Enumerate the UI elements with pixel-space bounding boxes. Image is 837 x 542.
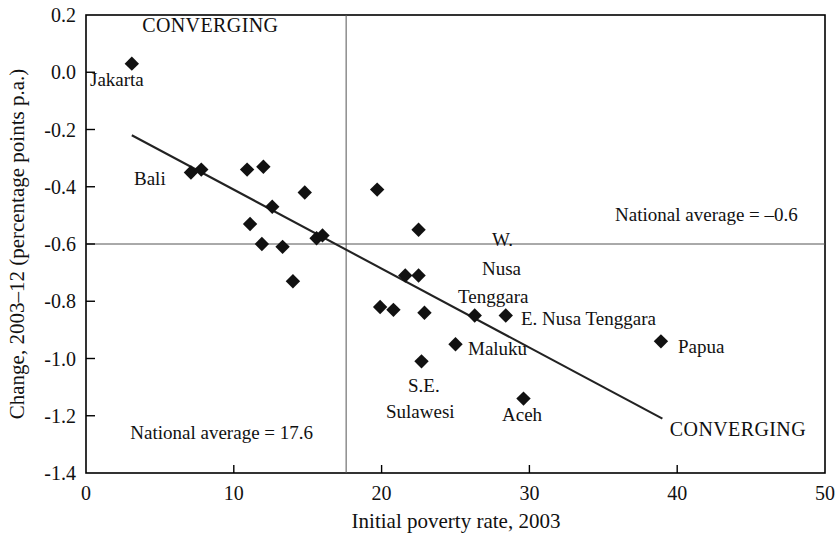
label-w-nusa-tenggara-line3: Tenggara bbox=[458, 286, 529, 307]
y-tick-label: -0.6 bbox=[44, 233, 76, 255]
x-tick-label: 40 bbox=[667, 482, 687, 504]
annotation-national-average-poverty: National average = 17.6 bbox=[130, 422, 313, 443]
label-maluku: Maluku bbox=[468, 338, 528, 359]
scatter-plot-figure: 01020304050 0.20.0-0.2-0.4-0.6-0.8-1.0-1… bbox=[0, 0, 837, 542]
annotation-converging-top-left: CONVERGING bbox=[142, 14, 278, 36]
label-aceh: Aceh bbox=[502, 404, 543, 425]
x-tick-label: 20 bbox=[372, 482, 392, 504]
x-axis-title: Initial poverty rate, 2003 bbox=[352, 509, 561, 533]
annotation-converging-bottom-right: CONVERGING bbox=[670, 418, 806, 440]
y-tick-label: 0.0 bbox=[51, 61, 76, 83]
label-se-sulawesi-line1: S.E. bbox=[408, 375, 440, 396]
annotation-national-average-change: National average = –0.6 bbox=[615, 204, 798, 225]
y-tick-label: -0.4 bbox=[44, 176, 76, 198]
y-axis-title: Change, 2003–12 (percentage points p.a.) bbox=[5, 69, 29, 419]
label-w-nusa-tenggara-line2: Nusa bbox=[482, 258, 522, 279]
label-e-nusa-tenggara: E. Nusa Tenggara bbox=[521, 308, 657, 329]
x-tick-label: 30 bbox=[519, 482, 539, 504]
y-tick-label: -1.2 bbox=[44, 405, 76, 427]
label-se-sulawesi-line2: Sulawesi bbox=[386, 401, 455, 422]
y-tick-label: 0.2 bbox=[51, 4, 76, 26]
label-papua: Papua bbox=[678, 336, 725, 357]
x-tick-label: 0 bbox=[81, 482, 91, 504]
chart-svg: 01020304050 0.20.0-0.2-0.4-0.6-0.8-1.0-1… bbox=[0, 0, 837, 542]
label-w-nusa-tenggara-line1: W. bbox=[492, 229, 513, 250]
y-tick-label: -1.4 bbox=[44, 462, 76, 484]
label-jakarta: Jakarta bbox=[90, 69, 144, 90]
y-tick-label: -0.2 bbox=[44, 119, 76, 141]
y-tick-label: -1.0 bbox=[44, 348, 76, 370]
label-bali: Bali bbox=[134, 168, 166, 189]
x-tick-label: 50 bbox=[815, 482, 835, 504]
x-tick-label: 10 bbox=[224, 482, 244, 504]
y-tick-label: -0.8 bbox=[44, 290, 76, 312]
